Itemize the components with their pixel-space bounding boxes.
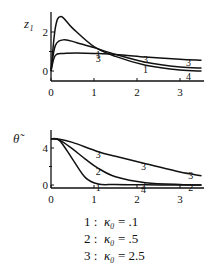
x-tick-label: 1 (91, 86, 97, 98)
bottom-plot-theta: 012304θ̃32132432 (13, 130, 204, 205)
legend: 1 : κ₀ = .1 2 : κ₀ = .5 3 : κ₀ = 2.5 (84, 213, 145, 264)
x-tick-label: 0 (48, 193, 54, 205)
y-tick-label: 0 (43, 179, 49, 191)
curve-label: 4 (186, 71, 191, 82)
y-tick-label: 0 (43, 65, 49, 77)
legend-entry-1: 1 : κ₀ = .1 (84, 213, 145, 230)
x-tick-label: 0 (48, 86, 54, 98)
series-1-line (51, 139, 202, 185)
curve-label: 2 (96, 166, 101, 177)
curve-label: 3 (141, 161, 146, 172)
y-axis-label: z₁ (23, 16, 34, 31)
series-3-line (51, 139, 202, 176)
y-axis-label: θ̃ (13, 131, 25, 146)
x-tick-label: 1 (91, 193, 97, 205)
x-tick-label: 3 (177, 86, 183, 98)
y-tick-label: 4 (43, 142, 49, 154)
curve-label: 2 (188, 182, 193, 193)
series-1-line (51, 16, 202, 71)
x-tick-label: 2 (134, 86, 140, 98)
curve-label: 3 (186, 57, 191, 68)
x-tick-label: 3 (177, 193, 183, 205)
y-tick-label: 2 (43, 26, 49, 38)
curve-label: 1 (96, 182, 101, 193)
legend-entry-2: 2 : κ₀ = .5 (84, 230, 145, 247)
legend-entry-3: 3 : κ₀ = 2.5 (84, 247, 145, 264)
curve-label: 3 (96, 149, 101, 160)
curve-label: 4 (141, 184, 146, 195)
x-tick-label: 2 (134, 193, 140, 205)
curve-label: 1 (143, 64, 148, 75)
curve-label: 3 (188, 170, 193, 181)
series-3-line (51, 53, 202, 71)
curve-label: 3 (96, 53, 101, 64)
top-plot-z1: 012302z₁133134 (23, 12, 204, 98)
